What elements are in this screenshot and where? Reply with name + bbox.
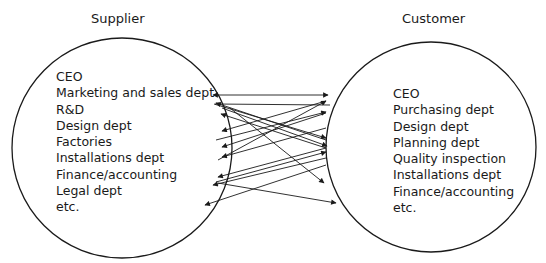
customer-title: Customer [402,11,465,26]
supplier-item: Marketing and sales dept [56,85,214,101]
supplier-item: Legal dept [56,183,214,199]
customer-item: Finance/accounting [393,184,514,200]
supplier-item: Design dept [56,118,214,134]
customer-item: CEO [393,86,514,102]
customer-item: etc. [393,200,514,216]
supplier-departments: CEO Marketing and sales dept R&D Design … [56,69,214,216]
supplier-item: CEO [56,69,214,85]
supplier-item: R&D [56,102,214,118]
supplier-item: Installations dept [56,150,214,166]
customer-item: Installations dept [393,167,514,183]
customer-departments: CEO Purchasing dept Design dept Planning… [393,86,514,216]
supplier-title: Supplier [91,11,145,26]
customer-item: Purchasing dept [393,102,514,118]
supplier-item: Finance/accounting [56,167,214,183]
customer-item: Planning dept [393,135,514,151]
customer-item: Quality inspection [393,151,514,167]
supplier-item: Factories [56,134,214,150]
customer-item: Design dept [393,119,514,135]
supplier-item: etc. [56,199,214,215]
